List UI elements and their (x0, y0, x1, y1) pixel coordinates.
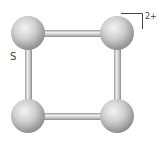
atom-label-s: S (10, 51, 16, 63)
sulfur-atom-bottom-right (100, 99, 134, 133)
sulfur-atom-top-right (100, 16, 134, 50)
sulfur-atom-bottom-left (11, 99, 45, 133)
s4-molecule-diagram (0, 0, 167, 147)
charge-label: 2+ (145, 12, 157, 22)
sulfur-atom-top-left (11, 16, 45, 50)
